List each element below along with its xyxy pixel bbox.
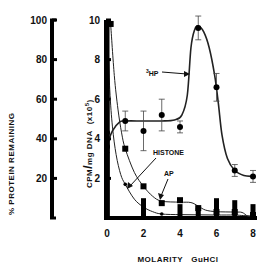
point-3hp <box>214 84 220 90</box>
bar-protein-remaining <box>141 198 146 218</box>
x-axis-tick-label: 4 <box>177 228 183 239</box>
right-axis-tick-label: 8 <box>94 54 100 65</box>
point-3hp <box>195 25 201 31</box>
y-right-label-mult: (x10 <box>85 106 94 124</box>
x-axis-tick-label: 0 <box>104 228 110 239</box>
y-left-axis-label: % PROTEIN REMAINING <box>7 113 16 215</box>
point-histone <box>141 183 147 189</box>
right-axis-tick-label: 4 <box>94 133 100 144</box>
x-axis-tick-label: 6 <box>214 228 220 239</box>
annotation-3hp: 3HP <box>146 68 190 77</box>
annotation-histone-label: HISTONE <box>153 149 184 156</box>
left-axis: 10080604020 <box>30 15 57 219</box>
bar-protein-remaining <box>214 198 219 218</box>
left-axis-tick-label: 40 <box>36 133 48 144</box>
curves <box>107 24 253 217</box>
annotation-ap-arrow <box>161 179 168 196</box>
chart: 10080604020 % PROTEIN REMAINING CPM/mg D… <box>0 0 272 271</box>
point-ap <box>123 183 127 187</box>
annotation-histone: HISTONE <box>127 149 184 189</box>
annotation-3hp-label: 3HP <box>146 68 159 77</box>
annotation-ap-label: AP <box>164 170 174 177</box>
point-3hp <box>141 128 147 134</box>
left-axis-tick-label: 20 <box>36 173 48 184</box>
right-axis-tick-label: 2 <box>94 173 100 184</box>
y-right-axis-label: CPM/mg DNA(x105) <box>81 99 95 188</box>
bar-protein-remaining <box>251 204 256 218</box>
x-axis-tick-label: 8 <box>250 228 256 239</box>
bar-protein-remaining <box>196 208 201 218</box>
right-axis-tick-label: 10 <box>89 15 101 26</box>
bar-protein-remaining <box>105 139 110 218</box>
point-histone <box>177 197 183 203</box>
left-axis-tick-label: 100 <box>30 15 47 26</box>
y-right-label-unit: mg DNA <box>85 130 94 165</box>
point-3hp <box>159 112 165 118</box>
point-histone <box>159 200 165 206</box>
point-3hp <box>232 167 238 173</box>
right-axis-tick-label: 6 <box>94 94 100 105</box>
bar-protein-remaining <box>178 204 183 218</box>
main-axes: 10864202468 <box>89 15 257 240</box>
point-3hp <box>250 173 256 179</box>
point-histone <box>122 146 128 152</box>
x-axis-label: MOLARITY GuHCl <box>137 255 218 264</box>
annotation-ap-arrowhead <box>158 193 164 200</box>
x-axis-tick-label: 2 <box>141 228 147 239</box>
annotation-3hp-main: HP <box>149 70 159 77</box>
left-axis-tick-label: 60 <box>36 94 48 105</box>
annotation-ap: AP <box>158 170 174 200</box>
annotation-3hp-arrow <box>162 72 187 74</box>
y-right-label-close: ) <box>85 99 94 102</box>
point-ap <box>160 212 164 216</box>
point-3hp <box>177 124 183 130</box>
bar-protein-remaining <box>232 200 237 218</box>
left-axis-tick-label: 80 <box>36 54 48 65</box>
point-3hp <box>122 118 128 124</box>
y-right-label-main: CPM <box>85 169 94 188</box>
